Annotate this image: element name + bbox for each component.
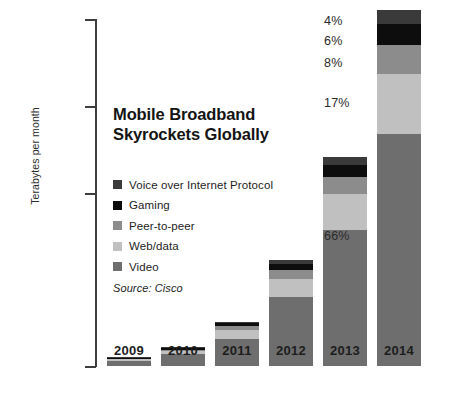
- chart-figure: Terabytes per month 3 600 0002 700 0001 …: [0, 0, 461, 401]
- legend-item[interactable]: Peer-to-peer: [113, 219, 313, 232]
- legend-item-label: Peer-to-peer: [129, 220, 195, 232]
- percent-callout: 17%: [324, 96, 350, 110]
- legend-item-label: Video: [129, 261, 159, 273]
- legend-item[interactable]: Voice over Internet Protocol: [113, 178, 313, 191]
- bar-segment[interactable]: [377, 74, 421, 135]
- y-axis-title: Terabytes per month: [29, 66, 41, 246]
- source-note: Source: Cisco: [113, 282, 313, 294]
- percent-callout: 4%: [324, 14, 342, 28]
- chart-title: Mobile Broadband Skyrockets Globally: [113, 104, 313, 144]
- bar-segment[interactable]: [323, 177, 367, 194]
- percent-callout: 6%: [324, 34, 342, 48]
- bar-segment[interactable]: [215, 330, 259, 339]
- legend-item[interactable]: Video: [113, 260, 313, 273]
- legend-item-label: Gaming: [129, 199, 170, 211]
- bar-stack: [323, 157, 367, 366]
- bar-segment[interactable]: [377, 45, 421, 74]
- x-axis-label: 2011: [215, 343, 259, 358]
- x-axis-label: 2010: [161, 343, 205, 358]
- title-and-legend-block: Mobile Broadband Skyrockets Globally Voi…: [113, 104, 313, 294]
- bar-segment[interactable]: [323, 165, 367, 177]
- x-axis-label: 2012: [269, 343, 313, 358]
- legend-swatch-icon: [113, 262, 122, 271]
- legend-swatch-icon: [113, 242, 122, 251]
- bar-segment[interactable]: [377, 10, 421, 24]
- bar-segment[interactable]: [377, 24, 421, 45]
- legend-swatch-icon: [113, 221, 122, 230]
- legend-item-label: Web/data: [129, 240, 179, 252]
- x-axis-label: 2013: [323, 343, 367, 358]
- legend-item[interactable]: Gaming: [113, 199, 313, 212]
- chart-legend: Voice over Internet ProtocolGamingPeer-t…: [113, 178, 313, 273]
- bar-segment[interactable]: [323, 194, 367, 230]
- bar-segment[interactable]: [107, 361, 151, 366]
- legend-swatch-icon: [113, 180, 122, 189]
- bar-stack: [107, 357, 151, 366]
- bar-segment[interactable]: [323, 157, 367, 165]
- legend-item[interactable]: Web/data: [113, 240, 313, 253]
- x-axis-label: 2009: [107, 343, 151, 358]
- x-axis-label: 2014: [377, 343, 421, 358]
- bar-stack: [377, 10, 421, 366]
- percent-callout: 8%: [324, 56, 342, 70]
- legend-swatch-icon: [113, 201, 122, 210]
- legend-item-label: Voice over Internet Protocol: [129, 179, 273, 191]
- percent-callout: 66%: [324, 229, 350, 243]
- bar-segment[interactable]: [377, 134, 421, 366]
